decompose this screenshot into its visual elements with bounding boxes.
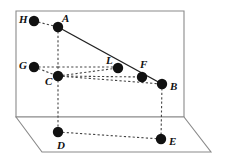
point-label-F: F: [140, 59, 147, 70]
point-label-B: B: [170, 81, 177, 92]
floor-plane: [16, 117, 211, 152]
point-G[interactable]: [29, 62, 39, 72]
point-label-C: C: [45, 76, 52, 87]
point-B[interactable]: [157, 79, 167, 89]
point-L[interactable]: [113, 63, 123, 73]
point-D[interactable]: [53, 127, 63, 137]
point-C[interactable]: [53, 71, 63, 81]
geometry-figure: HAGCLFBDE: [0, 0, 232, 162]
point-label-A: A: [62, 13, 69, 24]
back-plane: [16, 11, 184, 117]
point-E[interactable]: [156, 134, 166, 144]
point-label-G: G: [19, 60, 27, 71]
point-label-E: E: [169, 136, 176, 147]
point-label-L: L: [106, 55, 113, 66]
point-label-D: D: [57, 140, 65, 151]
point-F[interactable]: [137, 72, 147, 82]
figure-canvas: [0, 0, 232, 162]
point-label-H: H: [19, 14, 28, 25]
point-H[interactable]: [29, 16, 39, 26]
